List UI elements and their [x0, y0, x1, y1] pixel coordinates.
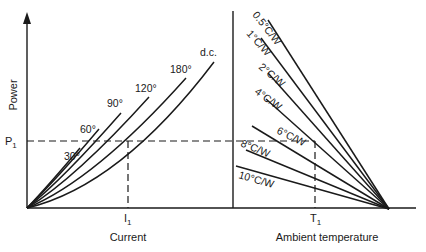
ambient-temperature-axis-label: Ambient temperature: [276, 231, 379, 243]
power-current-panel: Power P1 30°60°90°120°180°d.c. I1 Curren…: [5, 12, 416, 243]
i1-label: I1: [124, 212, 132, 227]
thermal-line-label: 8°C/W: [239, 137, 272, 160]
p1-main: P: [5, 135, 12, 147]
curve-label: 90°: [107, 97, 123, 109]
thyristor-power-diagram: Power P1 30°60°90°120°180°d.c. I1 Curren…: [0, 0, 426, 252]
curve-label: 30°: [64, 150, 80, 162]
conduction-angle-labels: 30°60°90°120°180°d.c.: [64, 46, 217, 162]
i1-sub: 1: [127, 218, 132, 227]
thermal-line-label: 4°C/W: [253, 85, 285, 113]
curve-label: 120°: [135, 82, 157, 94]
t1-label: T1: [310, 212, 322, 227]
curve-label: 60°: [80, 123, 96, 135]
thermal-resistance-labels: 0.5°C/W1°C/W2°C/W4°C/W6°C/W8°C/W10°C/W: [237, 9, 307, 190]
conduction-angle-curves: [27, 62, 214, 208]
curve-label: d.c.: [200, 46, 217, 58]
thermal-line-6CW: [252, 126, 389, 209]
power-axis-arrow-icon: [23, 12, 31, 24]
power-axis-label: Power: [7, 79, 19, 111]
thermal-line-label: 6°C/W: [275, 124, 308, 148]
thermal-line-4CW: [266, 99, 389, 209]
current-axis-label: Current: [110, 231, 147, 243]
p1-sub: 1: [12, 141, 17, 150]
t1-sub: 1: [317, 218, 322, 227]
p1-label: P1: [5, 135, 17, 150]
curve-label: 180°: [170, 63, 192, 75]
curve-dc: [27, 62, 214, 208]
